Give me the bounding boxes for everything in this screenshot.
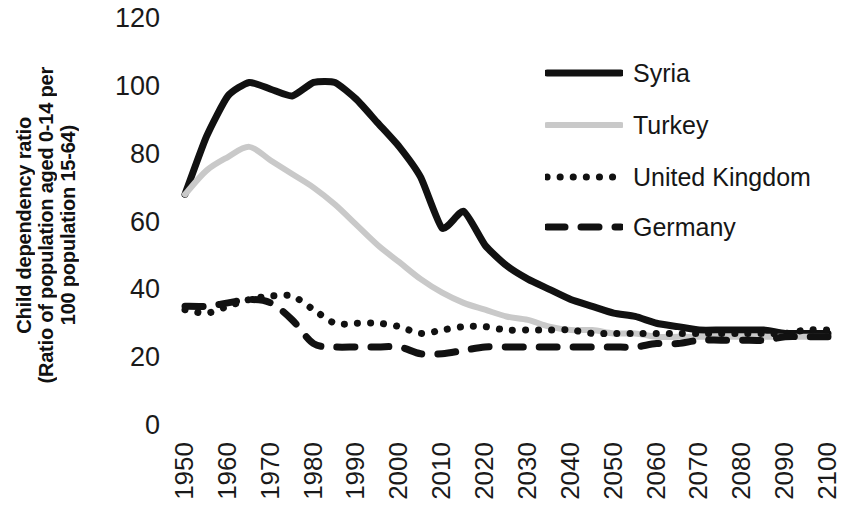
legend-swatch-united-kingdom-icon: [545, 166, 623, 188]
legend-label: Syria: [633, 61, 690, 86]
x-axis-tick-1980: 1980: [300, 442, 326, 500]
x-axis-tick-2060: 2060: [643, 442, 669, 500]
y-axis-tick-80: 80: [98, 140, 160, 167]
x-axis-tick-2050: 2050: [600, 442, 626, 500]
x-axis-tick-2090: 2090: [771, 442, 797, 500]
x-axis-tick-2010: 2010: [428, 442, 454, 500]
legend-swatch-germany-icon: [545, 216, 623, 238]
x-axis-tick-2070: 2070: [685, 442, 711, 500]
legend-label: Turkey: [633, 113, 708, 138]
y-axis-tick-0: 0: [98, 412, 160, 439]
legend-item-syria[interactable]: Syria: [545, 58, 690, 88]
x-axis-tick-1950: 1950: [171, 442, 197, 500]
x-axis-tick-2040: 2040: [557, 442, 583, 500]
x-axis-tick-2020: 2020: [471, 442, 497, 500]
y-axis-title-line-3: 100 population 15-64): [58, 125, 78, 325]
legend-item-united-kingdom[interactable]: United Kingdom: [545, 162, 811, 192]
legend-swatch-syria-icon: [545, 62, 623, 84]
legend-item-germany[interactable]: Germany: [545, 212, 736, 242]
y-axis-title-line-2: (Ratio of population aged 0-14 per: [36, 67, 56, 384]
y-axis-title-line-1: Child dependency ratio: [14, 117, 34, 334]
y-axis-tick-100: 100: [98, 72, 160, 99]
x-axis-tick-labels: 1950196019701980199020002010202020302040…: [0, 436, 841, 508]
legend-swatch-turkey-icon: [545, 114, 623, 136]
x-axis-tick-2100: 2100: [814, 442, 840, 500]
legend-item-turkey[interactable]: Turkey: [545, 110, 708, 140]
x-axis-tick-2000: 2000: [385, 442, 411, 500]
x-axis-tick-2030: 2030: [514, 442, 540, 500]
y-axis-tick-20: 20: [98, 344, 160, 371]
y-axis-tick-labels: 120100806040200: [98, 0, 160, 450]
chart-legend: SyriaTurkeyUnited KingdomGermany: [545, 30, 841, 230]
legend-label: United Kingdom: [633, 165, 811, 190]
y-axis-tick-40: 40: [98, 276, 160, 303]
x-axis-tick-2080: 2080: [728, 442, 754, 500]
x-axis-tick-1970: 1970: [257, 442, 283, 500]
x-axis-tick-1990: 1990: [342, 442, 368, 500]
y-axis-tick-120: 120: [98, 5, 160, 32]
y-axis-tick-60: 60: [98, 208, 160, 235]
chart-container: Child dependency ratio (Ratio of populat…: [0, 0, 841, 508]
legend-label: Germany: [633, 215, 736, 240]
y-axis-title: Child dependency ratio (Ratio of populat…: [0, 0, 104, 450]
x-axis-tick-1960: 1960: [214, 442, 240, 500]
